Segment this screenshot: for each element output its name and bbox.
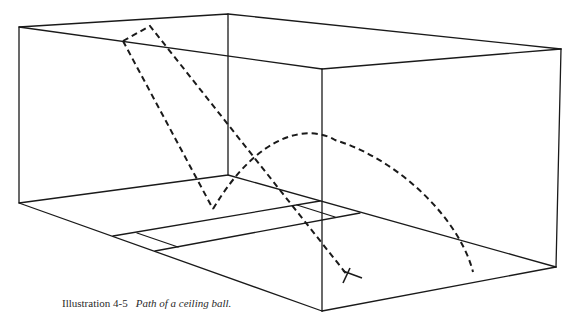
figure-label: Illustration 4-5 [62, 297, 128, 309]
court-wireframe [19, 14, 561, 311]
short-line [113, 201, 320, 236]
ceiling-edge-left [19, 27, 322, 69]
floor-edge-right [228, 175, 556, 267]
front-right-vertical [556, 49, 561, 267]
front-top-edge [322, 49, 561, 69]
ball-path [123, 26, 473, 276]
service-line [155, 213, 360, 251]
ceiling-edge-right [228, 14, 561, 49]
landing-mark [343, 268, 362, 283]
floor-edge-left [19, 203, 322, 311]
ceiling-ball-diagram [0, 0, 573, 332]
figure-title: Path of a ceiling ball. [136, 297, 232, 309]
ceiling-hit-path [123, 26, 348, 276]
service-box-left [137, 233, 178, 247]
service-box-right [297, 205, 335, 217]
front-bottom-edge [322, 267, 556, 311]
ceiling-to-floor-path [123, 41, 213, 209]
figure-caption: Illustration 4-5Path of a ceiling ball. [62, 297, 231, 309]
